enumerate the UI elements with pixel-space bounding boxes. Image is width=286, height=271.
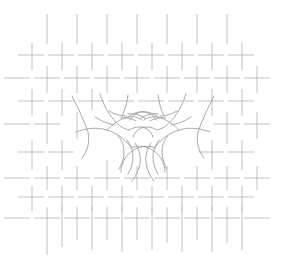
artwork-canvas	[0, 0, 286, 271]
artwork-svg	[0, 0, 286, 271]
canvas-background	[0, 0, 286, 271]
